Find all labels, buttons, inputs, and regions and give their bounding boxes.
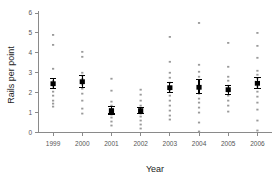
- raw-data-point: [256, 32, 258, 34]
- raw-data-point: [110, 121, 112, 123]
- raw-data-point: [227, 105, 229, 107]
- raw-data-point: [81, 93, 83, 95]
- raw-data-point: [227, 111, 229, 113]
- raw-data-point: [198, 131, 200, 133]
- raw-data-point: [256, 57, 258, 59]
- raw-data-point: [110, 125, 112, 127]
- raw-data-point: [256, 45, 258, 47]
- raw-data-point: [169, 77, 171, 79]
- raw-data-point: [256, 74, 258, 76]
- x-tick-label-2001: 2001: [104, 140, 119, 147]
- mean-marker-2006: [255, 81, 260, 86]
- mean-marker-2004: [196, 85, 201, 90]
- raw-data-point: [110, 101, 112, 103]
- raw-data-point: [52, 68, 54, 70]
- raw-data-point: [227, 76, 229, 78]
- raw-data-point: [198, 122, 200, 124]
- raw-data-point: [110, 78, 112, 80]
- raw-data-point: [52, 44, 54, 46]
- chart-figure: Rails per point Year 0123456 19992000200…: [0, 0, 276, 176]
- raw-data-point: [169, 100, 171, 102]
- raw-data-point: [227, 42, 229, 44]
- raw-data-point: [198, 112, 200, 114]
- raw-data-point: [140, 116, 142, 118]
- raw-data-point: [169, 110, 171, 112]
- mean-marker-2000: [80, 79, 85, 84]
- raw-data-point: [169, 36, 171, 38]
- raw-data-point: [52, 103, 54, 105]
- raw-data-point: [140, 120, 142, 122]
- raw-data-point: [52, 34, 54, 36]
- raw-data-point: [110, 117, 112, 119]
- raw-data-point: [140, 94, 142, 96]
- raw-data-point: [227, 80, 229, 82]
- x-tick-label-2006: 2006: [250, 140, 265, 147]
- mean-marker-2003: [167, 85, 172, 90]
- raw-data-point: [169, 119, 171, 121]
- raw-data-point: [169, 95, 171, 97]
- raw-data-point: [198, 98, 200, 100]
- raw-data-point: [81, 88, 83, 90]
- y-tick-label: 5: [28, 29, 32, 36]
- y-tick-label: 4: [28, 49, 32, 56]
- raw-data-point: [81, 72, 83, 74]
- raw-data-point: [256, 109, 258, 111]
- raw-data-point: [81, 113, 83, 115]
- raw-data-point: [198, 22, 200, 24]
- raw-data-point: [140, 105, 142, 107]
- scatter-plot-svg: Rails per point Year 0123456 19992000200…: [0, 0, 276, 176]
- y-axis-label: Rails per point: [6, 46, 16, 104]
- raw-data-point: [52, 95, 54, 97]
- y-tick-label: 3: [28, 69, 32, 76]
- raw-data-point: [256, 120, 258, 122]
- raw-data-point: [256, 70, 258, 72]
- raw-data-point: [256, 91, 258, 93]
- raw-data-point: [140, 124, 142, 126]
- raw-data-point: [227, 66, 229, 68]
- raw-data-point: [169, 61, 171, 63]
- x-tick-label-2005: 2005: [221, 140, 236, 147]
- x-tick-label-2000: 2000: [75, 140, 90, 147]
- x-tick-group: 19992000200120022003200420052006: [46, 133, 265, 148]
- raw-data-point: [52, 91, 54, 93]
- x-tick-label-2004: 2004: [192, 140, 207, 147]
- y-tick-group: 0123456: [28, 9, 38, 135]
- y-tick-label: 0: [28, 129, 32, 136]
- raw-data-point: [169, 115, 171, 117]
- raw-data-point: [140, 89, 142, 91]
- y-tick-label: 6: [28, 9, 32, 16]
- mean-marker-2001: [109, 108, 114, 113]
- raw-points-group: [52, 22, 259, 132]
- raw-data-point: [198, 76, 200, 78]
- raw-data-point: [140, 128, 142, 130]
- raw-data-point: [169, 72, 171, 74]
- raw-data-point: [198, 102, 200, 104]
- raw-data-point: [198, 107, 200, 109]
- x-tick-label-1999: 1999: [46, 140, 61, 147]
- raw-data-point: [110, 90, 112, 92]
- raw-data-point: [169, 105, 171, 107]
- raw-data-point: [52, 100, 54, 102]
- raw-data-point: [198, 71, 200, 73]
- raw-data-point: [140, 100, 142, 102]
- y-tick-label: 2: [28, 89, 32, 96]
- mean-marker-2005: [226, 87, 231, 92]
- x-axis-label: Year: [146, 164, 164, 174]
- raw-data-point: [227, 95, 229, 97]
- raw-data-point: [81, 108, 83, 110]
- raw-data-point: [256, 102, 258, 104]
- raw-data-point: [52, 106, 54, 108]
- mean-marker-2002: [138, 108, 143, 113]
- raw-data-point: [256, 96, 258, 98]
- mean-marker-1999: [50, 81, 55, 86]
- raw-data-point: [256, 130, 258, 132]
- x-tick-label-2003: 2003: [163, 140, 178, 147]
- raw-data-point: [81, 100, 83, 102]
- raw-data-point: [227, 100, 229, 102]
- x-tick-label-2002: 2002: [133, 140, 148, 147]
- raw-data-point: [81, 51, 83, 53]
- raw-data-point: [81, 56, 83, 58]
- y-tick-label: 1: [28, 109, 32, 116]
- raw-data-point: [198, 64, 200, 66]
